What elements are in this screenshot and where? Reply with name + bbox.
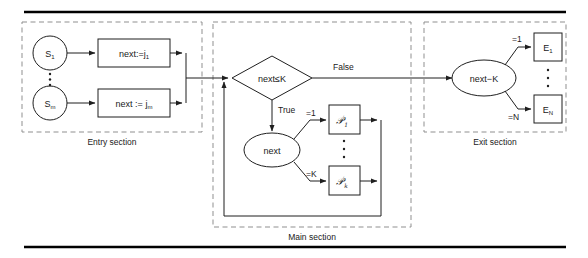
edge-label-true: True	[278, 105, 295, 115]
main-ellipsis-dot-1	[343, 140, 345, 142]
node-assign-first-label: next:=j1	[119, 49, 150, 61]
node-proc-first	[329, 105, 360, 134]
node-decision-label: next≤K	[258, 74, 286, 84]
main-ellipsis-dot-3	[343, 156, 345, 158]
edge-exit-to-e-first	[505, 47, 531, 65]
exit-ellipsis-dot-1	[547, 69, 549, 71]
flowchart-canvas: S1 Sm next:=j1 next := jm next≤K Fa	[0, 0, 588, 258]
node-assign-last-text: next := j	[116, 99, 148, 109]
entry-ellipsis-dot-1	[49, 73, 51, 75]
entry-ellipsis-dot-2	[49, 78, 51, 80]
exit-ellipsis-dot-2	[547, 77, 549, 79]
node-proc-last-sub: k	[344, 182, 348, 189]
node-proc-last	[329, 166, 360, 195]
entry-ellipsis-dot-3	[49, 84, 51, 86]
entry-section-label: Entry section	[87, 137, 136, 147]
edge-label-exit-branch-first: =1	[512, 34, 522, 44]
edge-label-branch-first: =1	[306, 108, 316, 118]
edge-label-exit-branch-last: =N	[508, 112, 519, 122]
node-assign-last-sub: m	[147, 104, 152, 110]
edge-label-false: False	[333, 62, 354, 72]
node-assign-first-text: next:=j	[119, 49, 146, 59]
main-section-label: Main section	[288, 232, 336, 242]
node-sm-label-sub: m	[51, 104, 56, 110]
flowchart-figure: S1 Sm next:=j1 next := jm next≤K Fa	[0, 0, 588, 258]
node-e-last-sub: N	[549, 110, 553, 116]
node-next-minus-k-label: next−K	[470, 74, 498, 84]
exit-ellipsis-dot-3	[547, 85, 549, 87]
main-ellipsis-dot-2	[343, 148, 345, 150]
node-assign-last-label: next := jm	[116, 99, 153, 111]
edge-next-to-proc-first	[294, 120, 326, 139]
exit-section-label: Exit section	[473, 137, 517, 147]
node-next-label: next	[263, 146, 281, 156]
edge-exit-to-e-last	[505, 91, 531, 109]
node-proc-first-sub: 1	[344, 121, 348, 128]
edge-label-branch-last: =K	[306, 169, 317, 179]
